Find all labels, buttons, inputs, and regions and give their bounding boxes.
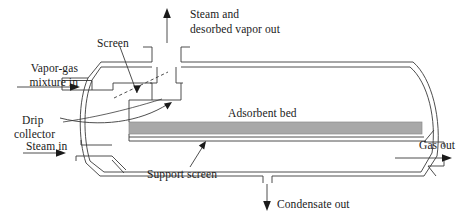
left-head-inner — [85, 81, 92, 162]
label-condensate-out: Condensate out — [277, 198, 350, 211]
shell-bottom-left-shoulder-inner — [90, 161, 104, 172]
condensate-out-arrowhead — [263, 201, 271, 211]
label-adsorbent-bed: Adsorbent bed — [228, 107, 297, 120]
screen-leader-arrowhead — [133, 85, 141, 93]
drip-leader-curve — [63, 99, 162, 122]
label-gas-out: Gas out — [419, 139, 455, 152]
steam-out-arrowhead — [163, 8, 171, 18]
label-vapor-in-line1: Vapor-gas — [0, 62, 78, 75]
label-vapor-in-line2: mixture in — [0, 76, 78, 89]
label-screen: Screen — [97, 37, 129, 50]
label-steam-in: Steam in — [26, 140, 67, 153]
shell-left-shoulder-inner — [92, 67, 101, 80]
adsorbent-bed-fill — [129, 122, 422, 134]
screen-dashed-line — [114, 72, 168, 98]
label-drip-collector-line1: Drip — [22, 114, 43, 127]
figure-adsorber-diagram: Steam and desorbed vapor out Screen Vapo… — [0, 0, 468, 222]
gas-outlet-throat-lower — [428, 166, 436, 176]
support-screen-arrowhead — [199, 141, 206, 149]
label-support-screen: Support screen — [147, 168, 217, 181]
gas-out-arrowhead — [442, 154, 452, 162]
label-steam-out-line2: desorbed vapor out — [190, 23, 280, 36]
label-steam-out-line1: Steam and — [190, 8, 239, 21]
shell-bottom-left-shoulder-outer — [86, 163, 100, 176]
